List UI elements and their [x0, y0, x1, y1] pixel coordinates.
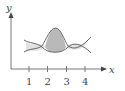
x-axis-label: x: [109, 64, 115, 75]
x-tick-label-3: 3: [64, 76, 70, 87]
x-tick-label-1: 1: [26, 76, 32, 87]
center-lobe-region: [45, 28, 66, 52]
y-axis-label: y: [5, 2, 12, 13]
x-tick-label-4: 4: [82, 76, 88, 87]
x-axis-arrow-icon: [101, 67, 107, 72]
area-between-curves-diagram: y x 1 2 3 4: [0, 0, 125, 91]
diagram-canvas: y x 1 2 3 4: [0, 0, 125, 91]
x-tick-label-2: 2: [45, 76, 51, 87]
